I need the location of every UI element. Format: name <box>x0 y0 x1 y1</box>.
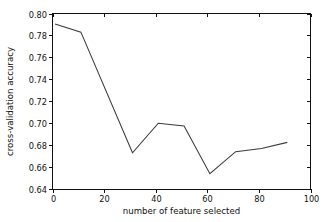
y-tick-label-0.70: 0.70 <box>29 119 47 129</box>
y-tick-label-0.76: 0.76 <box>29 53 47 63</box>
x-axis-title: number of feature selected <box>123 206 240 216</box>
line-chart: 020406080100 0.640.660.680.700.720.740.7… <box>0 0 326 222</box>
y-tick-label-0.68: 0.68 <box>29 141 47 151</box>
y-tick-label-0.72: 0.72 <box>29 97 47 107</box>
x-tick-label-80: 80 <box>254 194 264 204</box>
chart-figure: 020406080100 0.640.660.680.700.720.740.7… <box>0 0 326 222</box>
y-tick-label-0.74: 0.74 <box>29 75 47 85</box>
y-axis-title: cross-validation accuracy <box>5 47 15 156</box>
y-tick-label-0.64: 0.64 <box>29 185 47 195</box>
x-tick-label-100: 100 <box>304 194 320 204</box>
x-tick-label-0: 0 <box>51 194 56 204</box>
y-tick-label-0.66: 0.66 <box>29 163 47 173</box>
y-tick-label-0.80: 0.80 <box>29 10 47 20</box>
x-tick-label-60: 60 <box>202 194 212 204</box>
x-tick-label-40: 40 <box>151 194 161 204</box>
y-tick-label-0.78: 0.78 <box>29 31 47 41</box>
y-axis-tick-labels: 0.640.660.680.700.720.740.760.780.80 <box>29 10 47 195</box>
x-tick-label-20: 20 <box>99 194 109 204</box>
